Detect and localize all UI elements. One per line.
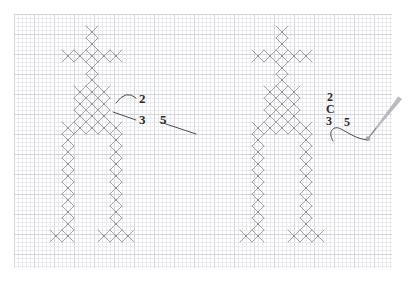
stitch-hole [305, 199, 307, 201]
stitch-hole [269, 115, 271, 117]
stitch-hole [91, 43, 93, 45]
stitch-cross [62, 158, 74, 170]
stitch-cross [98, 50, 110, 62]
stitch-cross [86, 122, 98, 134]
stitch-cross [62, 134, 74, 146]
stitch-hole [293, 91, 295, 93]
stitch-hole [293, 127, 295, 129]
stitch-hole [91, 79, 93, 81]
stitch-hole [293, 235, 295, 237]
stitch-cross [62, 170, 74, 182]
stitch-hole [281, 67, 283, 69]
stitch-hole [257, 199, 259, 201]
stitch-hole [67, 187, 69, 189]
stitch-hole [103, 103, 105, 105]
stitch-cross [62, 146, 74, 158]
stitch-hole [67, 235, 69, 237]
stitch-hole [67, 163, 69, 165]
stitch-cross [74, 86, 86, 98]
stitch-hole [79, 103, 81, 105]
stitch-hole [115, 175, 117, 177]
stitch-hole [245, 235, 247, 237]
stitch-hole [55, 235, 57, 237]
stitch-cross [110, 206, 122, 218]
stitch-hole [103, 235, 105, 237]
stitch-cross [62, 194, 74, 206]
stitch-hole [257, 151, 259, 153]
stitch-hole [115, 211, 117, 213]
stitch-cross [110, 170, 122, 182]
stitch-hole [91, 67, 93, 69]
stitch-hole [281, 103, 283, 105]
stitch-hole [79, 91, 81, 93]
stitch-cross [86, 86, 98, 98]
stitch-hole [67, 55, 69, 57]
stitch-hole [67, 139, 69, 141]
stitch-cross [62, 182, 74, 194]
stitch-hole [257, 139, 259, 141]
stitch-hole [103, 127, 105, 129]
needle-tip-knot [365, 136, 370, 141]
stitch-hole [281, 91, 283, 93]
stitch-hole [115, 235, 117, 237]
stitch-hole [91, 31, 93, 33]
stitch-cross [110, 182, 122, 194]
stitch-hole [305, 127, 307, 129]
stitch-hole [67, 199, 69, 201]
stitch-hole [91, 115, 93, 117]
label-5-left: 5 [160, 113, 167, 126]
stitch-hole [67, 127, 69, 129]
stitch-hole [257, 211, 259, 213]
stitch-cross [98, 122, 110, 134]
stitch-hole [281, 79, 283, 81]
stitch-hole [115, 187, 117, 189]
stitch-hole [281, 43, 283, 45]
stitch-hole [91, 127, 93, 129]
stitch-hole [103, 55, 105, 57]
stitch-cross [86, 50, 98, 62]
stitch-hole [305, 223, 307, 225]
stitch-hole [115, 199, 117, 201]
stitch-hole [115, 55, 117, 57]
stitch-hole [79, 127, 81, 129]
stitch-hole [115, 139, 117, 141]
stitch-hole [269, 103, 271, 105]
stitch-hole [91, 103, 93, 105]
stitch-hole [79, 115, 81, 117]
stitch-cross [62, 122, 74, 134]
stitch-hole [305, 139, 307, 141]
stitch-cross [86, 62, 98, 74]
diagram-canvas: 2352C35 [0, 0, 409, 284]
stitch-cross [74, 110, 86, 122]
stitch-hole [305, 175, 307, 177]
stitch-cross [86, 74, 98, 86]
label-3-right: 3 [326, 115, 332, 127]
leader-3-left [113, 112, 136, 120]
stitch-cross [62, 50, 74, 62]
stitch-cross [110, 50, 122, 62]
stitch-hole [281, 115, 283, 117]
stitch-hole [115, 127, 117, 129]
stitch-hole [115, 163, 117, 165]
stitch-hole [269, 91, 271, 93]
stitch-cross [74, 122, 86, 134]
stitch-hole [127, 235, 129, 237]
stitch-cross [110, 218, 122, 230]
stitch-cross [110, 134, 122, 146]
label-5-right: 5 [344, 116, 350, 128]
stitch-cross [86, 26, 98, 38]
stitch-hole [269, 127, 271, 129]
stitch-hole [305, 151, 307, 153]
stitch-hole [293, 115, 295, 117]
stitch-cross [86, 98, 98, 110]
stitch-hole [91, 55, 93, 57]
stitch-hole [91, 91, 93, 93]
stitch-hole [79, 55, 81, 57]
stitch-hole [257, 223, 259, 225]
stitch-cross [110, 146, 122, 158]
stitch-hole [103, 91, 105, 93]
stitch-hole [305, 187, 307, 189]
stitch-hole [67, 175, 69, 177]
stitch-cross [62, 206, 74, 218]
stitch-cross [98, 110, 110, 122]
